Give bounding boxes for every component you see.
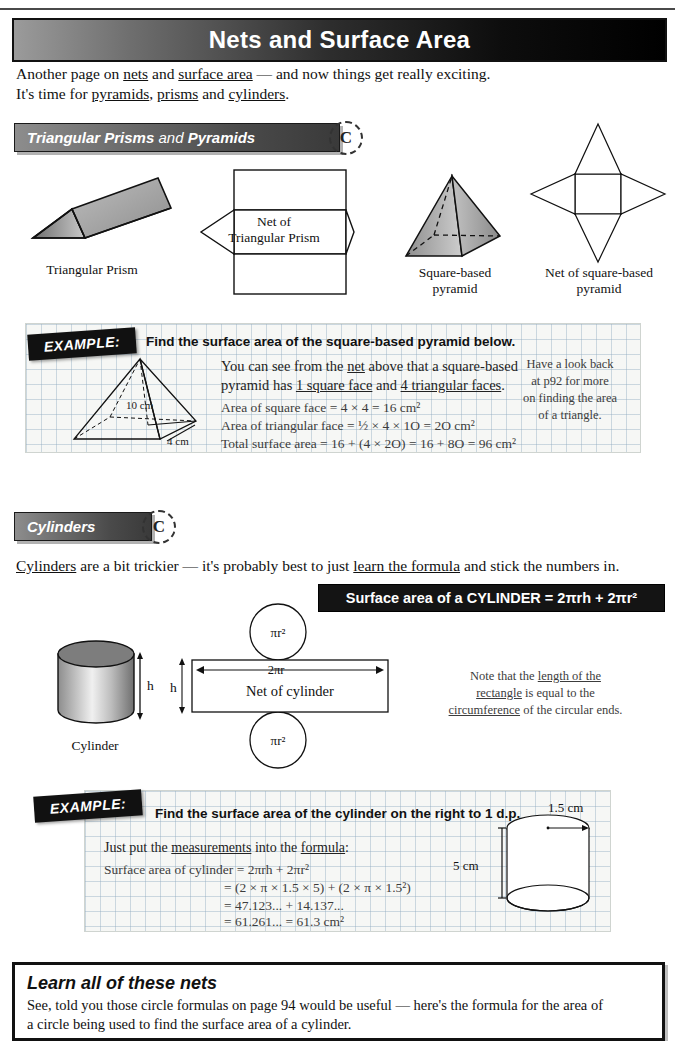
- body-text: into the: [251, 840, 300, 855]
- net-height-label: h: [170, 680, 177, 695]
- summary-box: Learn all of these nets See, told you th…: [12, 962, 665, 1041]
- caption-net-triangular-prism: Net of Triangular Prism: [216, 214, 332, 246]
- intro-text: and: [148, 65, 178, 82]
- net-circle-top-label: πr²: [271, 625, 286, 640]
- example2-height-label: 5 cm: [453, 856, 479, 875]
- note-line-2: rectangle is equal to the: [408, 685, 663, 702]
- note-text: of the circular ends.: [520, 703, 622, 717]
- intro-text: — and now things get really exciting.: [253, 65, 491, 82]
- note-line-3: circumference of the circular ends.: [408, 702, 663, 719]
- caption-line-2: Triangular Prism: [216, 230, 332, 246]
- grade-badge-c-cylinders: C: [142, 510, 176, 544]
- section-header-part2: and: [154, 129, 187, 146]
- intro-text: ,: [149, 85, 157, 102]
- example1-calc-1: Area of square face = 4 × 4 = 16 cm²: [221, 398, 420, 417]
- note-line-1: Note that the length of the: [408, 668, 663, 685]
- intro-link-cylinders: cylinders: [228, 85, 285, 102]
- intro-link-nets: nets: [123, 65, 148, 82]
- grade-badge-label: C: [153, 517, 165, 537]
- example1-pyramid-sketch: 10 cm 4 cm: [62, 355, 212, 447]
- example1-calc-2: Area of triangular face = ½ × 4 × 1O = 2…: [221, 416, 475, 435]
- intro-link-pyramids: pyramids: [92, 85, 150, 102]
- grade-badge-c-prisms: C: [329, 121, 363, 155]
- intro-link-cylinders: Cylinders: [16, 557, 76, 574]
- example1-slant-label: 10 cm: [126, 399, 154, 411]
- caption-line-1: Net of square-based: [525, 265, 673, 281]
- summary-line-1: See, told you those circle formulas on p…: [15, 996, 662, 1015]
- body-text: and: [372, 377, 400, 393]
- caption-cylinder: Cylinder: [30, 738, 160, 754]
- body-underline-1: 1 square face: [296, 377, 372, 393]
- intro-link-prisms: prisms: [157, 85, 198, 102]
- page-title-banner: Nets and Surface Area: [12, 18, 667, 62]
- sidenote-line-2: at p92 for more: [506, 373, 634, 390]
- net-circle-bottom-label: πr²: [271, 733, 286, 748]
- section-header-label: Triangular Prisms and Pyramids: [27, 129, 255, 146]
- example2-body: Just put the measurements into the formu…: [104, 838, 349, 857]
- example2-calc-1: Surface area of cylinder = 2πrh + 2πr²: [104, 860, 309, 879]
- section-header-label: Cylinders: [27, 518, 95, 535]
- body-underline-1: measurements: [171, 840, 251, 855]
- body-text: :: [345, 840, 349, 855]
- caption-square-based-pyramid: Square-based pyramid: [380, 265, 530, 297]
- intro-line-2: It's time for pyramids, prisms and cylin…: [16, 84, 656, 104]
- grade-badge-label: C: [340, 128, 352, 148]
- summary-heading: Learn all of these nets: [15, 965, 662, 996]
- intro-paragraph: Another page on nets and surface area — …: [16, 64, 656, 104]
- intro-link-formula: learn the formula: [353, 557, 460, 574]
- example2-calc-4: = 61.261... = 61.3 cm²: [224, 912, 344, 931]
- sidenote-line-4: of a triangle.: [506, 407, 634, 424]
- example1-calc-3: Total surface area = 16 + (4 × 2O) = 16 …: [221, 434, 516, 453]
- caption-line-1: Net of: [216, 214, 332, 230]
- example1-sidenote: Have a look back at p92 for more on find…: [506, 356, 634, 424]
- body-underline-2: formula: [301, 840, 345, 855]
- note-underline-1: length of the: [538, 669, 601, 683]
- section-header-triangular-prisms: Triangular Prisms and Pyramids: [14, 123, 340, 152]
- caption-triangular-prism: Triangular Prism: [12, 262, 172, 278]
- net-square-based-pyramid-diagram: [528, 122, 668, 264]
- sidenote-line-3: on finding the area: [506, 390, 634, 407]
- intro-text: and: [198, 85, 228, 102]
- top-rule: [0, 8, 675, 10]
- note-text: Note that the: [470, 669, 538, 683]
- intro-text: .: [285, 85, 289, 102]
- summary-line-2: a circle being used to find the surface …: [15, 1015, 662, 1034]
- example1-body-line-2: pyramid has 1 square face and 4 triangul…: [221, 376, 505, 395]
- net-cylinder-diagram: h 2πr πr² πr² Net of cylinder: [150, 600, 400, 770]
- example-tag-label: EXAMPLE:: [49, 795, 126, 816]
- example2-calc-2: = (2 × π × 1.5 × 5) + (2 × π × 1.5²): [224, 878, 411, 897]
- example1-base-label: 4 cm: [167, 435, 189, 447]
- caption-line-2: pyramid: [380, 281, 530, 297]
- net-cylinder-caption: Net of cylinder: [246, 683, 334, 699]
- triangular-prism-diagram: [25, 168, 190, 258]
- intro-text: It's time for: [16, 85, 92, 102]
- intro-text: and stick the numbers in.: [460, 557, 619, 574]
- sidenote-line-1: Have a look back: [506, 356, 634, 373]
- intro-text: Another page on: [16, 65, 123, 82]
- example1-body-line-1: You can see from the net above that a sq…: [221, 357, 518, 376]
- example1-question: Find the surface area of the square-base…: [146, 334, 515, 349]
- example2-cylinder-sketch: [495, 806, 610, 926]
- body-text: .: [501, 377, 505, 393]
- intro-line-1: Another page on nets and surface area — …: [16, 64, 656, 84]
- net-width-label: 2πr: [268, 663, 286, 677]
- body-text: Just put the: [104, 840, 171, 855]
- note-text: is equal to the: [522, 686, 595, 700]
- cylinder-note: Note that the length of the rectangle is…: [408, 668, 663, 719]
- note-underline-2: rectangle: [476, 686, 522, 700]
- body-text: pyramid has: [221, 377, 296, 393]
- caption-net-square-based-pyramid: Net of square-based pyramid: [525, 265, 673, 297]
- cylinders-intro: Cylinders are a bit trickier — it's prob…: [16, 556, 656, 576]
- square-based-pyramid-diagram: [400, 172, 510, 264]
- caption-line-1: Square-based: [380, 265, 530, 281]
- body-link-net: net: [347, 358, 365, 374]
- body-underline-2: 4 triangular faces: [401, 377, 502, 393]
- example2-question: Find the surface area of the cylinder on…: [155, 806, 520, 821]
- note-underline-3: circumference: [449, 703, 520, 717]
- body-text: You can see from the: [221, 358, 347, 374]
- caption-line-2: pyramid: [525, 281, 673, 297]
- example-tag-label: EXAMPLE:: [43, 333, 120, 354]
- body-text: above that a square-based: [365, 358, 518, 374]
- section-header-cylinders: Cylinders: [14, 512, 152, 541]
